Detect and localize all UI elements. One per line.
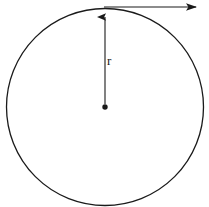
figure-canvas: r ··· [0, 0, 209, 207]
center-dot [102, 104, 107, 109]
circle-radius-diagram [0, 0, 209, 207]
tangent-arrow-label: ··· [131, 0, 145, 4]
radius-label: r [107, 54, 111, 67]
